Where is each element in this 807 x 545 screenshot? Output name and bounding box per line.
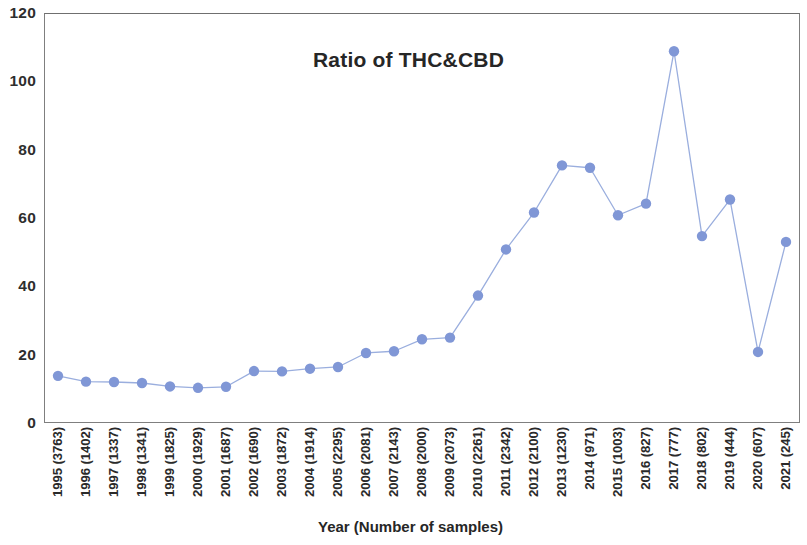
data-point-marker [165,381,175,391]
x-axis-tick-label: 2000 (1929) [191,427,205,515]
x-axis-tick-label: 2007 (2143) [387,427,401,515]
y-axis-tick-label: 80 [0,142,36,158]
x-axis-tick-labels: 1995 (3763)1996 (1402)1997 (1337)1998 (1… [44,427,800,515]
data-point-marker [81,376,91,386]
line-series-svg [44,13,800,423]
x-axis-tick-label: 1999 (1825) [163,427,177,515]
x-axis-tick-label: 2002 (1690) [247,427,261,515]
x-axis-tick-label: 1998 (1341) [135,427,149,515]
y-axis-tick-label: 120 [0,5,36,21]
y-axis-tick-label: 60 [0,210,36,226]
y-axis-tick-label: 100 [0,74,36,90]
data-point-marker [557,160,567,170]
x-axis-tick-label: 2011 (2342) [499,427,513,515]
x-axis-tick-label: 2017 (777) [667,427,681,515]
data-point-marker [585,163,595,173]
chart-title: Ratio of THC&CBD [0,48,807,72]
x-axis-tick-label: 1996 (1402) [79,427,93,515]
x-axis-tick-label: 2018 (802) [695,427,709,515]
x-axis-tick-label: 2013 (1230) [555,427,569,515]
x-axis-tick-label: 2020 (607) [751,427,765,515]
data-point-marker [725,194,735,204]
data-point-marker [417,334,427,344]
x-axis-tick-label: 2021 (245) [779,427,793,515]
x-axis-tick-label: 2003 (1872) [275,427,289,515]
data-point-marker [445,332,455,342]
y-axis-tick-label: 20 [0,347,36,363]
data-point-marker [473,290,483,300]
x-axis-title: Year (Number of samples) [0,518,807,535]
data-point-marker [305,363,315,373]
y-axis-tick-labels: 020406080100120 [0,0,36,545]
data-point-marker [613,210,623,220]
x-axis-tick-label: 1997 (1337) [107,427,121,515]
data-point-marker [221,382,231,392]
data-point-marker [249,366,259,376]
data-point-marker [333,362,343,372]
x-axis-tick-label: 2015 (1003) [611,427,625,515]
data-point-marker [697,231,707,241]
data-point-marker [529,207,539,217]
x-axis-tick-label: 2009 (2073) [443,427,457,515]
y-axis-tick-label: 40 [0,279,36,295]
data-point-marker [277,366,287,376]
y-axis-tick-label: 0 [0,415,36,431]
x-axis-tick-label: 2010 (2261) [471,427,485,515]
data-point-marker [193,383,203,393]
x-axis-tick-label: 2014 (971) [583,427,597,515]
x-axis-tick-label: 2012 (2100) [527,427,541,515]
x-axis-tick-label: 2016 (827) [639,427,653,515]
data-point-marker [361,348,371,358]
data-point-marker [389,346,399,356]
x-axis-tick-label: 2001 (1687) [219,427,233,515]
data-point-marker [781,237,791,247]
x-axis-tick-label: 2006 (2081) [359,427,373,515]
data-point-marker [501,244,511,254]
x-axis-tick-label: 2008 (2000) [415,427,429,515]
x-axis-tick-label: 1995 (3763) [51,427,65,515]
x-axis-tick-label: 2004 (1914) [303,427,317,515]
data-point-marker [137,378,147,388]
x-axis-tick-label: 2019 (444) [723,427,737,515]
data-point-marker [641,198,651,208]
data-point-marker [53,371,63,381]
data-point-marker [109,377,119,387]
x-axis-tick-label: 2005 (2295) [331,427,345,515]
data-point-marker [753,347,763,357]
chart-container: 020406080100120 Ratio of THC&CBD 1995 (3… [0,0,807,545]
